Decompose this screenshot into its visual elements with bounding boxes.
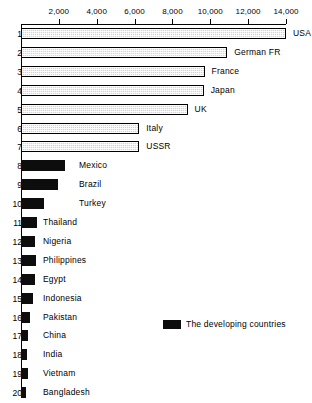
bar-row: 14Egypt [0,274,312,287]
bar-label: France [212,66,240,77]
bar-label: Mexico [79,160,107,171]
bar-row-rank: 8 [2,160,22,173]
bar-row: 12Nigeria [0,236,312,249]
bar-row-rank: 17 [2,330,22,343]
bar-row-rank: 3 [2,66,22,79]
bar-row: 6Italy [0,123,312,136]
bar-row: 11Thailand [0,217,312,230]
bar-label: Egypt [43,274,66,285]
bar-label: USSR [146,141,170,152]
bar-row-rank: 2 [2,47,22,60]
bar-pakistan [21,312,30,323]
bar-france [21,66,205,77]
bar-row-rank: 11 [2,217,22,230]
bar-row-rank: 6 [2,123,22,136]
bar-vietnam [21,368,28,379]
bar-usa [21,28,286,39]
bar-label: Brazil [79,179,101,190]
bar-brazil [21,179,58,190]
bar-label: USA [293,28,311,39]
bar-row-rank: 10 [2,198,22,211]
bar-label: Philippines [43,255,86,266]
bar-label: Pakistan [43,312,77,323]
bar-row-rank: 18 [2,349,22,362]
bar-label: Italy [146,123,163,134]
bar-row: 8Mexico [0,160,312,173]
bar-italy [21,123,139,134]
bar-row: 2German FR [0,47,312,60]
bar-row-rank: 16 [2,312,22,325]
bar-row: 3France [0,66,312,79]
bar-label: German FR [234,47,280,58]
bar-chart: 2,0004,0006,0008,00010,00012,00014,000 1… [0,0,312,403]
bar-german-fr [21,47,227,58]
bar-label: Turkey [79,198,106,209]
bar-row: 4Japan [0,85,312,98]
bar-row: 19Vietnam [0,368,312,381]
bar-row: 10Turkey [0,198,312,211]
bar-turkey [21,198,44,209]
bar-label: China [43,330,66,341]
bar-row: 9Brazil [0,179,312,192]
bar-row-rank: 19 [2,368,22,381]
bar-japan [21,85,204,96]
bar-row: 13Philippines [0,255,312,268]
bar-row-rank: 15 [2,293,22,306]
bar-row-rank: 12 [2,236,22,249]
bar-row-rank: 9 [2,179,22,192]
bar-row: 17China [0,330,312,343]
bar-uk [21,104,188,115]
bar-mexico [21,160,65,171]
bar-row-rank: 14 [2,274,22,287]
bar-egypt [21,274,35,285]
bar-label: Bangladesh [43,387,90,398]
bar-thailand [21,217,37,228]
legend-label-developing: The developing countries [186,319,286,330]
bar-row: 1USA [0,28,312,41]
bar-nigeria [21,236,35,247]
bar-bangladesh [21,387,26,398]
bar-row-rank: 13 [2,255,22,268]
bar-label: Indonesia [43,293,82,304]
bar-row: 7USSR [0,141,312,154]
bar-row: 5UK [0,104,312,117]
bar-indonesia [21,293,33,304]
bar-row-rank: 7 [2,141,22,154]
bar-row: 15Indonesia [0,293,312,306]
bar-row: 20Bangladesh [0,387,312,400]
bar-row-rank: 20 [2,387,22,400]
bar-row-rank: 1 [2,28,22,41]
bar-china [21,330,28,341]
bar-label: UK [195,104,207,115]
bar-row-rank: 4 [2,85,22,98]
bar-label: India [43,349,62,360]
bar-row-rank: 5 [2,104,22,117]
bar-label: Nigeria [43,236,71,247]
bar-ussr [21,141,139,152]
bar-label: Japan [211,85,235,96]
legend-swatch-developing [163,320,181,329]
bar-label: Thailand [43,217,77,228]
legend: The developing countries [163,318,286,330]
bar-philippines [21,255,36,266]
bar-india [21,349,27,360]
bar-rows: 1USA2German FR3France4Japan5UK6Italy7USS… [0,0,312,403]
bar-row: 18India [0,349,312,362]
bar-label: Vietnam [43,368,75,379]
